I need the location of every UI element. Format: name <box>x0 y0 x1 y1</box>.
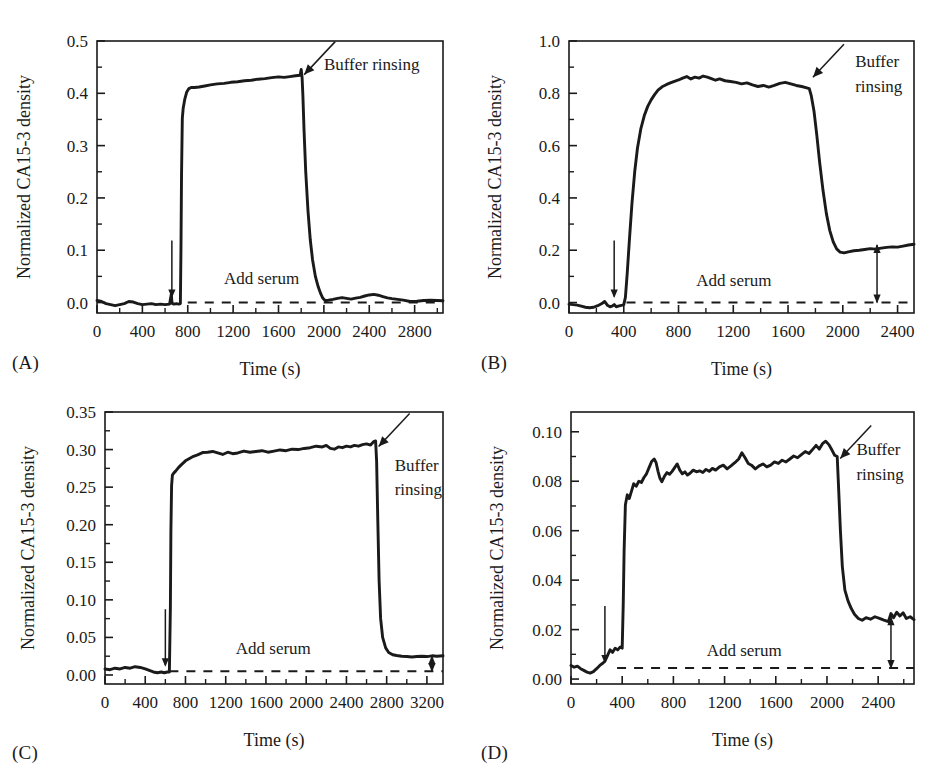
x-tick-label: 1600 <box>771 322 805 341</box>
y-tick-label: 0.08 <box>532 472 562 491</box>
panel-b: 0.00.20.40.60.81.00400800120016002000240… <box>471 0 943 390</box>
x-axis-title: Time (s) <box>712 730 773 751</box>
add-serum-arrow-head <box>162 658 169 667</box>
y-axis-title: Normalized CA15-3 density <box>18 446 38 650</box>
y-tick-label: 0.02 <box>532 621 562 640</box>
panel-b-plot: 0.00.20.40.60.81.00400800120016002000240… <box>471 0 943 390</box>
x-tick-label: 2800 <box>398 322 432 341</box>
plot-annotation: Add serum <box>224 269 299 288</box>
panel-b-label: (B) <box>481 352 507 374</box>
y-tick-label: 0.35 <box>66 403 96 422</box>
plot-annotation: rinsing <box>855 77 903 96</box>
y-tick-label: 0.10 <box>66 591 96 610</box>
y-tick-label: 0.0 <box>67 294 88 313</box>
x-tick-label: 400 <box>132 693 158 712</box>
x-tick-label: 2000 <box>289 693 323 712</box>
y-axis-title: Normalized CA15-3 density <box>14 75 34 279</box>
x-tick-label: 1200 <box>216 322 250 341</box>
x-tick-label: 2400 <box>861 693 895 712</box>
y-tick-label: 0.25 <box>66 478 96 497</box>
y-tick-label: 0.4 <box>67 84 89 103</box>
panel-d-plot: 0.000.020.040.060.080.100400800120016002… <box>471 390 943 781</box>
y-tick-label: 0.20 <box>66 516 96 535</box>
plot-annotation: Buffer <box>855 52 899 71</box>
x-tick-label: 2400 <box>352 322 386 341</box>
x-tick-label: 1600 <box>262 322 296 341</box>
y-axis-title: Normalized CA15-3 density <box>485 75 505 279</box>
panel-a-plot: 0.00.10.20.30.40.50400800120016002000240… <box>0 0 471 390</box>
panel-c-plot: 0.000.050.100.150.200.250.300.3504008001… <box>0 390 471 781</box>
panel-d-label: (D) <box>481 742 508 764</box>
add-serum-arrow-head <box>611 290 618 299</box>
panel-c: 0.000.050.100.150.200.250.300.3504008001… <box>0 390 471 781</box>
y-tick-label: 0.5 <box>67 32 88 51</box>
y-tick-label: 0.04 <box>532 571 562 590</box>
y-tick-label: 0.05 <box>66 628 96 647</box>
x-tick-label: 1600 <box>249 693 283 712</box>
delta-measure-arrow-head-bottom <box>873 295 880 304</box>
y-tick-label: 0.06 <box>532 522 562 541</box>
figure-panel-grid: 0.00.10.20.30.40.50400800120016002000240… <box>0 0 943 781</box>
x-axis-title: Time (s) <box>244 730 305 751</box>
panel-a-label: (A) <box>12 352 39 374</box>
y-tick-label: 0.15 <box>66 553 96 572</box>
x-tick-label: 800 <box>661 693 687 712</box>
y-tick-label: 0.0 <box>539 294 560 313</box>
x-tick-label: 1200 <box>708 693 742 712</box>
x-tick-label: 2400 <box>329 693 363 712</box>
x-axis-title: Time (s) <box>711 359 772 380</box>
x-tick-label: 0 <box>93 322 102 341</box>
y-tick-label: 0.2 <box>539 241 560 260</box>
x-tick-label: 0 <box>565 322 574 341</box>
y-tick-label: 0.2 <box>67 189 88 208</box>
plot-annotation: Buffer <box>856 440 900 459</box>
plot-annotation: rinsing <box>856 465 904 484</box>
x-tick-label: 400 <box>609 693 635 712</box>
y-tick-label: 0.6 <box>539 137 560 156</box>
plot-annotation: Add serum <box>696 271 771 290</box>
x-tick-label: 400 <box>130 322 156 341</box>
x-tick-label: 2000 <box>810 693 844 712</box>
x-tick-label: 800 <box>173 693 199 712</box>
x-tick-label: 3200 <box>410 693 444 712</box>
x-tick-label: 1200 <box>209 693 243 712</box>
y-tick-label: 0.10 <box>532 423 562 442</box>
y-tick-label: 0.8 <box>539 84 560 103</box>
x-tick-label: 800 <box>175 322 201 341</box>
y-tick-label: 0.3 <box>67 137 88 156</box>
y-axis-title: Normalized CA15-3 density <box>487 446 507 650</box>
panel-c-label: (C) <box>12 742 38 764</box>
x-tick-label: 2000 <box>826 322 860 341</box>
plot-annotation: Add serum <box>236 639 311 658</box>
x-tick-label: 2000 <box>307 322 341 341</box>
x-tick-label: 0 <box>101 693 110 712</box>
plot-annotation: Add serum <box>707 641 782 660</box>
y-tick-label: 0.30 <box>66 441 96 460</box>
x-axis-title: Time (s) <box>240 359 301 380</box>
y-tick-label: 1.0 <box>539 32 560 51</box>
x-tick-label: 1600 <box>759 693 793 712</box>
x-tick-label: 800 <box>666 322 692 341</box>
x-tick-label: 1200 <box>716 322 750 341</box>
x-tick-label: 2400 <box>881 322 915 341</box>
x-tick-label: 2800 <box>370 693 404 712</box>
y-tick-label: 0.00 <box>532 670 562 689</box>
y-tick-label: 0.4 <box>539 189 561 208</box>
plot-annotation: rinsing <box>395 480 443 499</box>
x-tick-label: 400 <box>611 322 637 341</box>
plot-annotation: Buffer <box>395 456 439 475</box>
y-tick-label: 0.00 <box>66 666 96 685</box>
add-serum-arrow-head <box>168 290 175 299</box>
y-tick-label: 0.1 <box>67 241 88 260</box>
plot-annotation: Buffer rinsing <box>324 55 420 74</box>
panel-d: 0.000.020.040.060.080.100400800120016002… <box>471 390 943 781</box>
panel-a: 0.00.10.20.30.40.50400800120016002000240… <box>0 0 471 390</box>
x-tick-label: 0 <box>567 693 576 712</box>
